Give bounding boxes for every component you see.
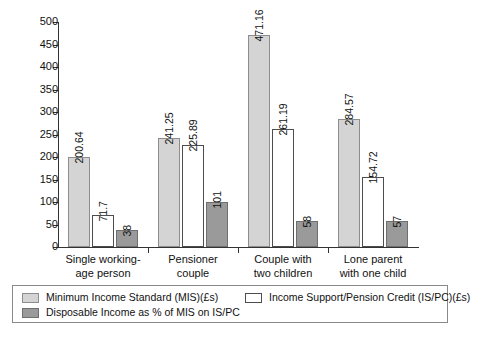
bar-value-label: 101 [211,191,222,209]
y-axis-tick-label: 450 [12,39,58,50]
y-axis-tick-label: 100 [12,196,58,207]
bar-value-label: 200.64 [73,131,84,163]
legend-item-ispc: Income Support/Pension Credit (IS/PC)(£s… [245,292,470,303]
chart-legend: Minimum Income Standard (MIS)(£s) Income… [12,285,448,323]
legend-label-disposable-income: Disposable Income as % of MIS on IS/PC [46,307,240,318]
bar-value-label: 471.16 [253,9,264,41]
bar-ispc [182,145,204,247]
category-label-line: couple [148,267,238,281]
category-label-line: two children [238,267,328,281]
bar-value-label: 57 [391,216,402,228]
category-label-line: Couple with [238,253,328,267]
y-axis-tick-label: 0 [12,241,58,252]
category-label-line: Pensioner [148,253,238,267]
bar-value-label: 284.57 [343,93,354,125]
category-label-line: age person [58,267,148,281]
bar-value-label: 241.25 [163,113,174,145]
bar-value-label: 261.19 [277,104,288,136]
bar-value-label: 225.89 [187,120,198,152]
legend-swatch-mis [22,293,39,303]
legend-item-mis: Minimum Income Standard (MIS)(£s) [22,292,218,303]
y-axis-tick-label: 500 [12,16,58,27]
y-axis-tick-label: 250 [12,129,58,140]
category-label-line: Single working- [58,253,148,267]
x-axis-category-label: Couple withtwo children [238,253,328,280]
y-axis-tick-label: 300 [12,106,58,117]
bar-chart: 050100150200250300350400450500 200.6471.… [0,0,478,337]
category-label-line: with one child [328,267,418,281]
bar-mis [338,119,360,247]
legend-label-mis: Minimum Income Standard (MIS)(£s) [46,292,218,303]
y-axis-tick-label: 350 [12,84,58,95]
bar-mis [158,138,180,247]
legend-item-disposable-income: Disposable Income as % of MIS on IS/PC [22,307,240,318]
bar-mis [248,35,270,247]
legend-swatch-disposable-income [22,308,39,318]
bar-value-label: 71.7 [97,201,108,221]
bar-ispc [272,129,294,247]
bar-ispc [362,177,384,247]
y-axis-tick-label: 400 [12,61,58,72]
x-axis-category-label: Single working-age person [58,253,148,280]
plot-area: 200.6471.738241.25225.89101471.16261.195… [58,22,418,247]
legend-label-ispc: Income Support/Pension Credit (IS/PC)(£s… [269,292,470,303]
x-axis-category-label: Lone parentwith one child [328,253,418,280]
x-axis-category-label: Pensionercouple [148,253,238,280]
bar-value-label: 58 [301,216,312,228]
y-axis-tick-label: 50 [12,219,58,230]
y-axis-tick-label: 150 [12,174,58,185]
bar-mis [68,157,90,247]
y-axis-tick-label: 200 [12,151,58,162]
bar-value-label: 38 [121,225,132,237]
category-label-line: Lone parent [328,253,418,267]
bar-value-label: 154.72 [367,152,378,184]
legend-swatch-ispc [245,293,262,303]
